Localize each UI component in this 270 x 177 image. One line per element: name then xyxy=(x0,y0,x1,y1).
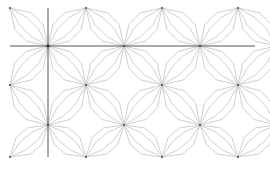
petal-shape xyxy=(124,46,162,85)
petal-shape xyxy=(48,85,86,125)
vertex-hub xyxy=(85,84,87,86)
petal-shape xyxy=(162,46,200,85)
petal-shape xyxy=(200,46,238,85)
petal-shape xyxy=(10,125,48,157)
vertex-hub xyxy=(47,124,49,126)
petal-shape xyxy=(86,85,124,125)
petal-shape xyxy=(124,85,162,125)
petal-shape xyxy=(162,85,200,125)
petal-shape xyxy=(10,85,48,125)
vertex-hub xyxy=(161,84,163,86)
petal-shape xyxy=(48,85,86,125)
petal-shape xyxy=(48,125,86,157)
vertex-hub xyxy=(9,156,11,158)
petal-shape xyxy=(200,85,238,125)
vertex-hub xyxy=(161,156,163,158)
petal-shape xyxy=(162,125,200,157)
petal-shape xyxy=(86,46,124,85)
petal-shape xyxy=(162,8,200,46)
petal-shape xyxy=(124,8,162,46)
petal-shape xyxy=(200,125,238,157)
vertex-hub xyxy=(46,44,49,47)
petal-shape xyxy=(124,125,162,157)
vertex-hub xyxy=(85,156,87,158)
petal-shape xyxy=(86,46,124,85)
vertex-hub xyxy=(199,124,201,126)
petal-shape xyxy=(10,8,48,46)
vertex-hub xyxy=(123,45,125,47)
petal-shape xyxy=(10,125,48,157)
petal-shape xyxy=(124,85,162,125)
petal-shape xyxy=(124,46,162,85)
vertex-hub xyxy=(9,84,11,86)
petal-shape xyxy=(10,8,48,46)
vertex-hub xyxy=(199,45,201,47)
petal-layer xyxy=(10,8,270,157)
petal-shape xyxy=(86,125,124,157)
petal-shape xyxy=(86,125,124,157)
petal-shape xyxy=(10,85,48,125)
vertex-hub xyxy=(237,156,239,158)
petal-shape xyxy=(48,125,86,157)
petal-shape xyxy=(162,8,200,46)
petal-shape xyxy=(10,46,48,85)
vertex-hub xyxy=(9,7,11,9)
petal-shape xyxy=(86,85,124,125)
petal-shape xyxy=(124,8,162,46)
vertex-hub xyxy=(237,7,239,9)
petal-shape xyxy=(200,125,238,157)
petal-shape xyxy=(86,8,124,46)
petal-shape xyxy=(162,85,200,125)
petal-shape xyxy=(200,8,238,46)
petal-shape xyxy=(162,46,200,85)
petal-shape xyxy=(124,125,162,157)
vertex-hub xyxy=(161,7,163,9)
vertex-hub xyxy=(123,124,125,126)
petal-shape xyxy=(48,8,86,46)
petal-shape xyxy=(162,125,200,157)
vertex-hub xyxy=(85,7,87,9)
tiling-diagram xyxy=(0,0,270,177)
vertex-hub xyxy=(237,84,239,86)
petal-shape xyxy=(200,85,238,125)
petal-shape xyxy=(200,8,238,46)
petal-shape xyxy=(48,46,86,85)
petal-shape xyxy=(10,46,48,85)
petal-shape xyxy=(48,8,86,46)
petal-shape xyxy=(200,46,238,85)
petal-shape xyxy=(86,8,124,46)
petal-shape xyxy=(48,46,86,85)
